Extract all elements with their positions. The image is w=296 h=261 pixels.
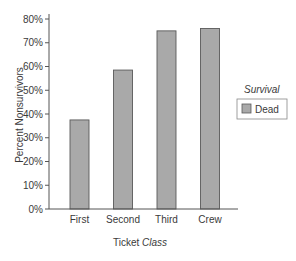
y-tick-label: 70%	[23, 37, 43, 48]
bar-third	[157, 31, 176, 209]
y-axis: 0%10%20%30%40%50%60%70%80%	[23, 14, 49, 215]
bar-second	[114, 70, 133, 209]
y-tick-label: 0%	[29, 204, 44, 215]
bar-chart: Percent Nonsurvivors 0%10%20%30%40%50%60…	[0, 0, 296, 261]
x-axis-title: Ticket Class	[113, 237, 167, 248]
bars	[70, 29, 220, 210]
y-tick-label: 10%	[23, 180, 43, 191]
legend-swatch-icon	[242, 104, 251, 113]
y-tick-label: 40%	[23, 109, 43, 120]
x-category-label: Third	[155, 214, 178, 225]
y-tick-label: 80%	[23, 14, 43, 25]
y-tick-label: 20%	[23, 156, 43, 167]
x-category-label: Second	[106, 214, 140, 225]
x-category-label: Crew	[198, 214, 222, 225]
y-tick-label: 50%	[23, 85, 43, 96]
legend-label-dead: Dead	[255, 104, 279, 115]
legend: Survival Dead	[237, 84, 287, 119]
bar-first	[70, 120, 89, 209]
y-tick-label: 30%	[23, 132, 43, 143]
bar-crew	[201, 29, 220, 210]
legend-title: Survival	[244, 84, 280, 95]
y-tick-label: 60%	[23, 61, 43, 72]
x-category-label: First	[70, 214, 90, 225]
x-axis-categories: FirstSecondThirdCrew	[70, 214, 223, 225]
